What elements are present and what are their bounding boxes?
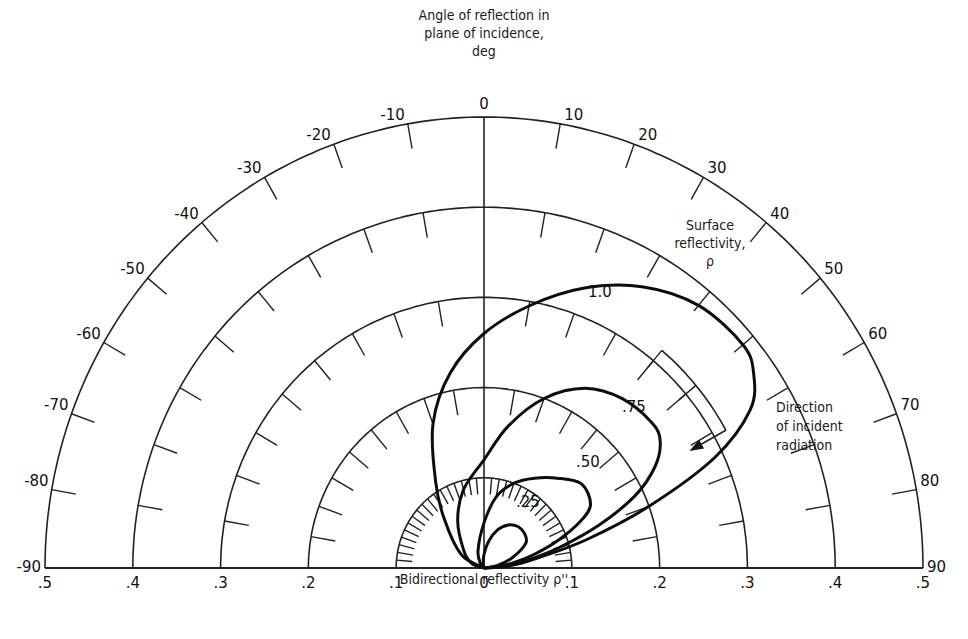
- radial-tick-label: .2: [652, 574, 666, 592]
- angle-tick: [417, 510, 429, 520]
- angle-tick: [52, 490, 76, 494]
- angle-tick: [334, 144, 342, 168]
- angle-tick: [352, 334, 364, 356]
- angle-tick: [892, 490, 916, 494]
- angle-label: 30: [708, 159, 727, 177]
- angle-tick: [180, 388, 201, 401]
- incident-arc-tick: [648, 350, 662, 367]
- angle-label: 40: [770, 205, 789, 223]
- angle-tick: [447, 486, 454, 501]
- angle-tick: [138, 505, 162, 509]
- angle-tick: [308, 256, 320, 278]
- angle-tick: [806, 505, 830, 509]
- angle-tick: [424, 398, 432, 422]
- angle-tick: [581, 430, 597, 449]
- radial-tick-label: .4: [828, 574, 842, 592]
- angle-tick: [615, 478, 636, 491]
- incident-label: Direction of incident radiation: [776, 398, 843, 455]
- angle-tick: [396, 412, 408, 434]
- angle-label: 0: [479, 95, 489, 113]
- angle-tick: [560, 412, 572, 434]
- angle-tick: [566, 314, 574, 338]
- angle-label: -60: [76, 325, 101, 343]
- angle-label: 70: [901, 396, 920, 414]
- angle-tick: [371, 430, 387, 449]
- angle-tick: [423, 213, 427, 238]
- angle-tick: [490, 478, 491, 494]
- angle-tick: [401, 537, 416, 543]
- angle-tick: [215, 336, 234, 352]
- angle-tick: [428, 499, 438, 511]
- angle-tick: [633, 537, 657, 541]
- angle-tick: [546, 523, 560, 531]
- angle-tick: [265, 177, 277, 199]
- angle-tick: [691, 177, 703, 199]
- incident-arc: [662, 350, 726, 430]
- angle-tick: [600, 452, 619, 468]
- radial-tick-label: .5: [38, 574, 52, 592]
- angle-tick: [404, 530, 418, 537]
- angle-label: -70: [44, 396, 69, 414]
- angle-tick: [596, 229, 604, 253]
- angle-tick: [801, 278, 820, 294]
- legend-title-line-1: Surface: [674, 216, 745, 234]
- angle-label: 80: [920, 472, 939, 490]
- angle-tick: [225, 521, 249, 525]
- legend-title-line-3: ρ: [674, 252, 745, 270]
- angle-label: 20: [638, 126, 657, 144]
- incident-label-line-3: radiation: [776, 436, 843, 455]
- angle-tick: [647, 256, 659, 278]
- radial-tick-label: .3: [213, 574, 227, 592]
- angle-tick: [311, 537, 335, 541]
- angle-label: -10: [380, 106, 405, 124]
- radial-tick-label: .3: [740, 574, 754, 592]
- angle-tick: [148, 278, 167, 294]
- angle-tick: [408, 523, 422, 531]
- angle-tick: [236, 475, 259, 484]
- angle-label: 50: [824, 260, 843, 278]
- angle-tick: [104, 343, 125, 356]
- angle-tick: [543, 516, 556, 525]
- legend-title: Surface reflectivity, ρ: [674, 216, 745, 270]
- angle-label: -40: [174, 205, 199, 223]
- angle-tick: [422, 504, 433, 515]
- angle-tick: [873, 414, 896, 423]
- angle-tick: [556, 124, 560, 149]
- angle-tick: [71, 414, 94, 423]
- angle-label: -20: [306, 126, 331, 144]
- curve-label-1.0: 1.0: [588, 283, 612, 301]
- angle-tick: [549, 530, 563, 537]
- angle-label: 10: [564, 106, 583, 124]
- tick-labels: 1.0.75.50.25-90-80-70-60-50-40-30-20-100…: [17, 95, 947, 592]
- radial-tick-label: .4: [126, 574, 140, 592]
- legend-title-line-2: reflectivity,: [674, 234, 745, 252]
- angle-tick: [397, 560, 413, 561]
- curve-label-0.75: .75: [622, 398, 646, 416]
- angle-tick: [408, 124, 412, 149]
- angle-tick: [454, 483, 459, 498]
- angle-tick: [541, 213, 545, 238]
- angle-tick: [412, 516, 425, 525]
- angle-label: -80: [24, 472, 49, 490]
- angle-tick: [398, 552, 414, 555]
- incident-arc-tick: [679, 385, 696, 399]
- angle-tick: [750, 223, 766, 242]
- angle-tick: [454, 390, 458, 415]
- radial-tick-label: .5: [916, 574, 930, 592]
- angle-tick: [510, 390, 514, 415]
- angle-tick: [539, 510, 551, 520]
- angle-tick: [332, 478, 353, 491]
- angle-tick: [319, 506, 342, 515]
- angle-tick: [202, 223, 218, 242]
- angle-tick: [476, 478, 477, 494]
- angle-tick: [315, 361, 331, 380]
- angle-tick: [708, 475, 731, 484]
- angle-tick: [440, 490, 448, 504]
- polar-grid: [45, 117, 923, 568]
- angle-label: 60: [868, 325, 887, 343]
- angle-label: -50: [120, 260, 145, 278]
- angle-label: -30: [237, 159, 262, 177]
- angle-tick: [256, 433, 277, 446]
- angle-tick: [394, 314, 402, 338]
- angle-tick: [364, 229, 372, 253]
